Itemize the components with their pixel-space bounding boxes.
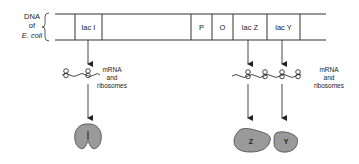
- dna-label-line2: of: [29, 21, 36, 30]
- gene-promoter: P: [199, 23, 204, 32]
- gene-lac-z: lac Z: [242, 23, 259, 32]
- mrna-label-left-line1: mRNA: [102, 66, 122, 73]
- dna-label-line1: DNA: [24, 12, 40, 21]
- gene-lac-y: lac Y: [275, 23, 292, 32]
- protein-y-label: Y: [284, 138, 289, 145]
- brace-icon: [42, 13, 49, 41]
- protein-i-icon: [75, 124, 102, 149]
- protein-z-label: Z: [249, 138, 254, 145]
- gene-operator: O: [220, 23, 226, 32]
- mrna-label-right-line2: and: [324, 74, 335, 81]
- gene-lac-i: lac I: [82, 23, 96, 32]
- lac-operon-diagram: DNA of E. coli lac I P O lac Z lac Y mRN…: [0, 0, 359, 164]
- dna-label-line3: E. coli: [22, 31, 43, 40]
- mrna-ribosome-icon: [62, 69, 100, 78]
- mrna-label-right-line3: ribosomes: [314, 82, 345, 89]
- mrna-label-left-line3: ribosomes: [97, 82, 128, 89]
- mrna-ribosome-icon: [232, 70, 301, 79]
- mrna-label-left-line2: and: [107, 74, 118, 81]
- mrna-label-right-line1: mRNA: [319, 66, 339, 73]
